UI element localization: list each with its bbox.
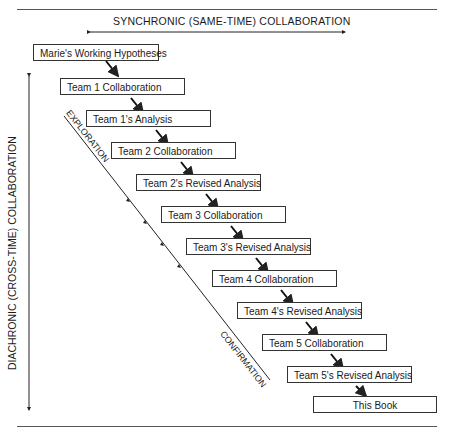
step-box-team5-revised: Team 5's Revised Analysis	[287, 366, 412, 383]
step-label: Team 1 Collaboration	[67, 82, 162, 93]
step-box-marie-hypotheses: Marie's Working Hypotheses	[33, 44, 159, 61]
step-box-this-book: This Book	[313, 396, 437, 413]
step-label: Team 1's Analysis	[93, 114, 172, 125]
step-box-team3-revised: Team 3's Revised Analysis	[186, 238, 311, 255]
step-box-team5-collaboration: Team 5 Collaboration	[262, 334, 387, 351]
step-label: Team 5 Collaboration	[269, 338, 364, 349]
step-label: Team 4 Collaboration	[219, 274, 314, 285]
step-box-team2-revised: Team 2's Revised Analysis	[136, 174, 261, 191]
step-box-team1-analysis: Team 1's Analysis	[86, 110, 211, 127]
step-box-team3-collaboration: Team 3 Collaboration	[161, 206, 286, 223]
step-box-team4-collaboration: Team 4 Collaboration	[212, 270, 337, 287]
step-label: Team 2 Collaboration	[118, 146, 213, 157]
diachronic-label: DIACHRONIC (CROSS-TIME) COLLABORATION	[6, 136, 18, 370]
step-label: This Book	[353, 400, 397, 411]
step-label: Team 5's Revised Analysis	[294, 370, 412, 381]
step-box-team1-collaboration: Team 1 Collaboration	[60, 78, 185, 95]
step-box-team4-revised: Team 4's Revised Analysis	[237, 302, 362, 319]
step-label: Team 3's Revised Analysis	[193, 242, 311, 253]
step-label: Team 2's Revised Analysis	[143, 178, 261, 189]
step-box-team2-collaboration: Team 2 Collaboration	[111, 142, 236, 159]
step-label: Marie's Working Hypotheses	[40, 48, 167, 59]
step-label: Team 3 Collaboration	[168, 210, 263, 221]
step-label: Team 4's Revised Analysis	[244, 306, 362, 317]
